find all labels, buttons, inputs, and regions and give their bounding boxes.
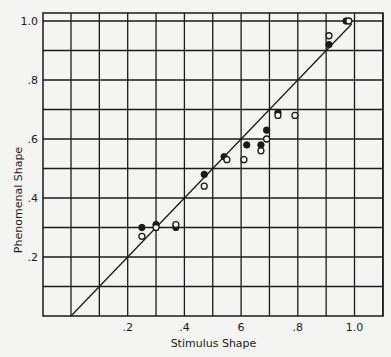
filled-data-point [139, 224, 145, 230]
open-data-point [258, 148, 264, 154]
identity-line [71, 24, 352, 316]
x-tick-labels: .2.46.81.0 [122, 321, 363, 334]
y-axis-label: Phenomenal Shape [8, 100, 28, 300]
open-data-point [224, 157, 230, 163]
x-tick-label: .2 [122, 321, 133, 334]
filled-data-point [263, 127, 269, 133]
x-axis-label: Stimulus Shape [0, 337, 391, 350]
x-tick-label: .4 [179, 321, 190, 334]
filled-data-point [326, 41, 332, 47]
y-axis-title: Phenomenal Shape [12, 147, 25, 253]
filled-data-point [201, 171, 207, 177]
open-data-point [264, 136, 270, 142]
y-tick-label: .6 [28, 133, 39, 146]
open-data-point [201, 183, 207, 189]
x-tick-label: 6 [238, 321, 245, 334]
grid-lines [43, 13, 383, 316]
y-tick-label: .2 [28, 251, 39, 264]
open-data-point [326, 33, 332, 39]
open-data-point [292, 112, 298, 118]
filled-data-point [244, 142, 250, 148]
x-tick-label: .8 [293, 321, 304, 334]
x-tick-label: 1.0 [346, 321, 364, 334]
open-data-point [346, 18, 352, 24]
y-tick-label: .4 [28, 192, 39, 205]
open-data-point [173, 222, 179, 228]
x-axis-title: Stimulus Shape [171, 337, 257, 350]
y-tick-label: 1.0 [21, 15, 39, 28]
open-data-point [241, 157, 247, 163]
open-data-point [153, 225, 159, 231]
filled-data-point [258, 142, 264, 148]
y-tick-label: .8 [28, 74, 39, 87]
scatter-chart: .2.4.6.81.0 .2.46.81.0 [0, 0, 391, 357]
open-data-point [275, 112, 281, 118]
open-data-point [139, 233, 145, 239]
